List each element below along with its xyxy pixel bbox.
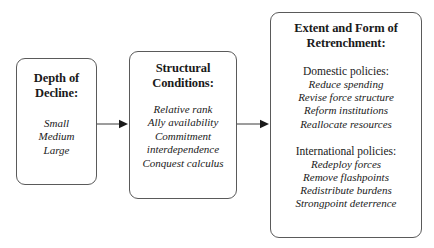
box-extent-and-form-of-retrenchment: Extent and Form of Retrenchment: Domesti…: [270, 12, 422, 238]
retrenchment-international-heading: International policies:: [296, 144, 397, 158]
flow-diagram: Depth of Decline: Small Medium Large Str…: [0, 0, 434, 248]
retrenchment-domestic-heading: Domestic policies:: [298, 64, 394, 78]
box-structural-conditions-items: Relative rank Ally availability Commitme…: [143, 103, 224, 170]
box-depth-of-decline-items: Small Medium Large: [38, 117, 74, 157]
retrenchment-group-domestic: Domestic policies: Reduce spending Revis…: [298, 64, 394, 131]
arrow-decline-to-structural: [97, 119, 129, 129]
arrow-structural-to-retrenchment: [237, 119, 270, 129]
box-structural-conditions-title: Structural Conditions:: [152, 61, 213, 90]
retrenchment-group-international: International policies: Redeploy forces …: [296, 144, 397, 211]
box-structural-conditions: Structural Conditions: Relative rank All…: [129, 51, 237, 199]
box-depth-of-decline-title: Depth of Decline:: [34, 71, 79, 100]
box-depth-of-decline: Depth of Decline: Small Medium Large: [16, 58, 97, 185]
box-retrenchment-title: Extent and Form of Retrenchment:: [294, 21, 397, 50]
retrenchment-international-items: Redeploy forces Remove flashpoints Redis…: [296, 158, 397, 211]
retrenchment-domestic-items: Reduce spending Revise force structure R…: [298, 78, 394, 131]
